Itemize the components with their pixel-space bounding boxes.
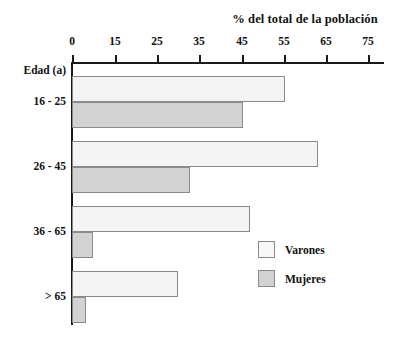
chart-title: % del total de la población (212, 12, 398, 27)
legend-swatch-varones-icon (258, 241, 275, 258)
category-label-1: 26 - 45 (4, 160, 66, 172)
x-axis-line (72, 62, 384, 64)
x-axis-tick (326, 55, 328, 63)
x-axis-tick (368, 55, 370, 63)
bar-mujeres-mas-65 (72, 297, 86, 323)
y-axis-title: Edad (a) (24, 64, 67, 76)
bar-varones-16-25 (72, 76, 285, 102)
x-axis-tick (72, 55, 74, 63)
x-axis-tick (115, 55, 117, 63)
bar-varones-26-45 (72, 141, 318, 167)
x-axis-tick-label: 0 (69, 35, 75, 47)
category-label-3: > 65 (4, 290, 66, 302)
bar-varones-mas-65 (72, 271, 178, 297)
x-axis-tick-label: 75 (362, 35, 374, 47)
x-axis-tick-label: 35 (193, 35, 205, 47)
x-axis-tick-label: 65 (320, 35, 332, 47)
bar-varones-36-65 (72, 206, 250, 232)
bar-mujeres-16-25 (72, 102, 243, 128)
legend-swatch-mujeres-icon (258, 270, 275, 287)
bar-mujeres-26-45 (72, 167, 190, 193)
x-axis-tick-label: 25 (151, 35, 163, 47)
bar-mujeres-36-65 (72, 232, 93, 258)
x-axis-tick (199, 55, 201, 63)
x-axis-tick (157, 55, 159, 63)
chart-legend: Varones Mujeres (258, 241, 326, 299)
legend-label-mujeres: Mujeres (285, 273, 326, 285)
bar-chart: % del total de la población 0 15 25 35 4… (0, 0, 400, 357)
category-label-0: 16 - 25 (4, 95, 66, 107)
x-axis-tick (284, 55, 286, 63)
x-axis-tick-label: 55 (278, 35, 290, 47)
x-axis-tick-label: 15 (109, 35, 121, 47)
legend-item-varones: Varones (258, 241, 326, 258)
x-axis-tick (242, 55, 244, 63)
legend-item-mujeres: Mujeres (258, 270, 326, 287)
category-label-2: 36 - 65 (4, 225, 66, 237)
legend-label-varones: Varones (285, 244, 325, 256)
x-axis-tick-label: 45 (236, 35, 248, 47)
